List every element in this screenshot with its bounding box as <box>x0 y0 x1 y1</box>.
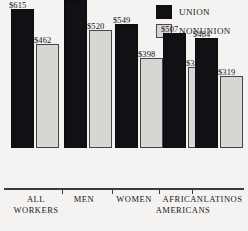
bar-pair: $653 $520 <box>61 2 111 148</box>
bar-group-women: $549 $398 <box>112 2 162 148</box>
bar-pair: $549 $398 <box>112 2 162 148</box>
bar-value-nonunion-latinos: $319 <box>218 67 235 77</box>
bar-value-nonunion-men: $520 <box>87 21 104 31</box>
category-label-line: ALL <box>6 194 66 205</box>
category-label-line: LATINOS <box>198 194 248 205</box>
bar-value-union-women: $549 <box>113 15 130 25</box>
bar-value-union-all-workers: $615 <box>9 0 26 10</box>
bar-value-union-latinos: $484 <box>193 29 210 39</box>
bar-nonunion-men: $520 <box>89 30 112 148</box>
category-label-line: AMERICANS <box>152 205 214 216</box>
bar-group-all-workers: $615 $462 <box>11 2 61 148</box>
plot-area: $615 $462 $653 $520 $549 <box>0 0 248 190</box>
category-label-latinos: LATINOS <box>198 194 248 205</box>
bar-group-men: $653 $520 <box>61 2 111 148</box>
bar-pair: $484 $319 <box>192 2 244 148</box>
category-label-line: WORKERS <box>6 205 66 216</box>
bar-group-latinos: $484 $319 <box>192 2 244 148</box>
category-label-men: MEN <box>58 194 110 205</box>
bar-value-nonunion-all-workers: $462 <box>34 35 51 45</box>
bar-value-union-men: $653 <box>62 0 79 1</box>
bar-value-nonunion-women: $398 <box>138 49 155 59</box>
bar-chart: UNION NONUNION $615 $462 $653 <box>0 0 248 231</box>
bar-union-men: $653 <box>64 0 87 148</box>
bar-nonunion-all-workers: $462 <box>36 44 59 148</box>
x-axis-baseline <box>4 188 244 190</box>
category-label-line: MEN <box>58 194 110 205</box>
category-label-all-workers: ALL WORKERS <box>6 194 66 216</box>
bar-union-latinos: $484 <box>195 38 218 148</box>
bar-value-union-african-americans: $507 <box>161 24 178 34</box>
bar-union-all-workers: $615 <box>11 9 34 148</box>
bar-nonunion-latinos: $319 <box>220 76 243 148</box>
bar-pair: $615 $462 <box>11 2 61 148</box>
bar-union-african-americans: $507 <box>163 33 186 148</box>
bar-union-women: $549 <box>115 24 138 148</box>
